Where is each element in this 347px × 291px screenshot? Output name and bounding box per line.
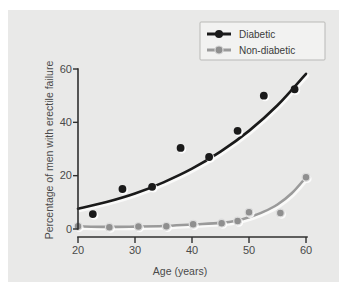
chart-canvas: 60 40 20 0 20 30 40 50 60 Age (years) Pe…: [0, 0, 347, 291]
chart-figure: 60 40 20 0 20 30 40 50 60 Age (years) Pe…: [0, 0, 347, 291]
data-point-diabetic-1: [119, 185, 127, 193]
legend-marker-diabetic: [215, 30, 223, 38]
x-tick-label-60: 60: [300, 244, 312, 256]
data-point-non-diabetic-6: [234, 217, 242, 225]
fit-curves-group: [78, 74, 308, 229]
data-point-diabetic-3: [177, 144, 185, 152]
x-tick-label-30: 30: [129, 244, 141, 256]
x-tick-label-20: 20: [72, 244, 84, 256]
data-point-non-diabetic-5: [218, 219, 226, 227]
y-tick-label-20: 20: [60, 169, 72, 181]
data-point-diabetic-0: [89, 210, 97, 218]
data-point-non-diabetic-3: [162, 222, 170, 230]
curve-shadow-diabetic: [80, 76, 308, 211]
legend-entry-non-diabetic[interactable]: Non-diabetic: [207, 45, 295, 56]
data-point-non-diabetic-9: [302, 173, 310, 181]
x-axis-title: Age (years): [153, 265, 207, 277]
data-point-diabetic-4: [205, 153, 213, 161]
data-point-non-diabetic-4: [189, 220, 197, 228]
data-point-diabetic-2: [148, 183, 156, 191]
y-tick-label-0: 0: [66, 223, 72, 235]
data-point-diabetic-6: [260, 92, 268, 100]
y-axis-title: Percentage of men with erectile failure: [43, 61, 55, 240]
y-tick-label-40: 40: [60, 116, 72, 128]
legend: Diabetic Non-diabetic: [200, 22, 325, 60]
legend-label-non-diabetic: Non-diabetic: [239, 45, 295, 56]
data-point-diabetic-5: [234, 127, 242, 135]
legend-label-diabetic: Diabetic: [239, 29, 275, 40]
data-point-non-diabetic-8: [276, 209, 284, 217]
legend-marker-non-diabetic: [215, 46, 223, 54]
data-point-non-diabetic-1: [105, 223, 113, 231]
x-axis-ticks: [78, 237, 306, 243]
fit-curve-diabetic: [78, 74, 306, 209]
y-tick-label-60: 60: [60, 63, 72, 75]
x-tick-label-40: 40: [186, 244, 198, 256]
x-tick-label-50: 50: [243, 244, 255, 256]
data-point-non-diabetic-7: [245, 208, 253, 216]
data-point-diabetic-7: [291, 85, 299, 93]
data-point-non-diabetic-2: [135, 223, 143, 231]
